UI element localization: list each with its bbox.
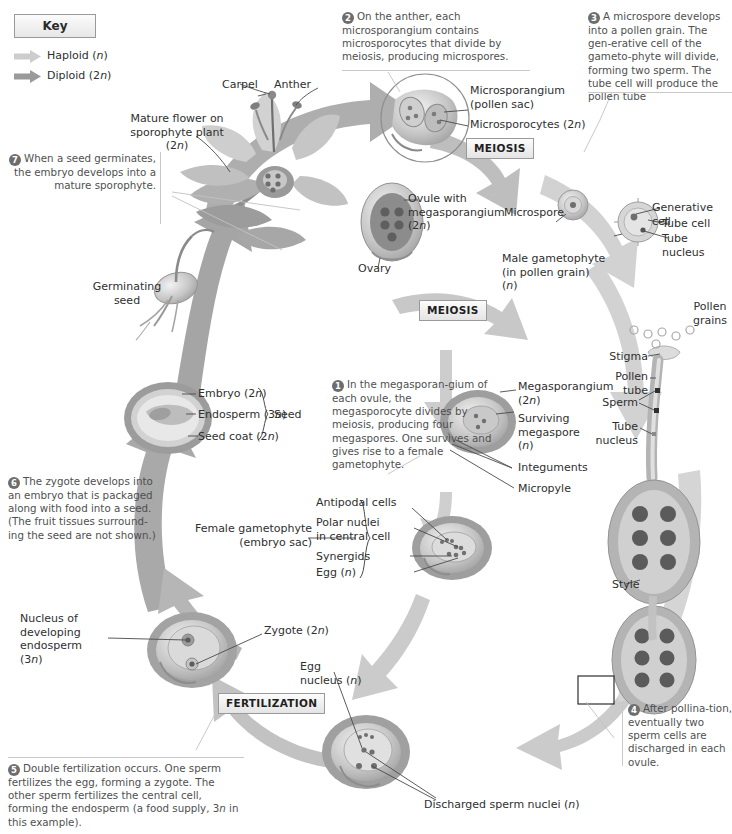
label-female-gametophyte: Female gametophyte (embryo sac) (194, 522, 312, 549)
step-callout-2: 2On the anther, each microsporangium con… (342, 10, 532, 64)
label-mature-flower: Mature flower on sporophyte plant (2n) (118, 112, 236, 153)
step-callout-4: 4After pollina-tion, eventually two sper… (628, 702, 732, 769)
step-text-6: The zygote develops into an embryo that … (8, 475, 156, 541)
step-callout-7: 7When a seed germinates, the embryo deve… (8, 152, 156, 192)
label-seed: Seed (274, 408, 302, 422)
life-cycle-diagram: Key Haploid (n) Diploid (2n) MEIOSIS MEI… (0, 0, 732, 834)
label-megasporangium: Megasporangium (2n) (518, 380, 613, 407)
female-gametophyte-illustration (412, 516, 492, 580)
label-polar-nuclei: Polar nuclei in central cell (316, 516, 390, 543)
label-pollen-grains: Pollen grains (688, 300, 732, 327)
step-callout-5: 5Double fertilization occurs. One sperm … (8, 762, 244, 829)
label-style: Style (612, 578, 640, 592)
label-microspore: Microspore (478, 206, 564, 220)
step-text-7: When a seed germinates, the embryo devel… (14, 152, 156, 191)
label-integuments: Integuments (518, 461, 588, 475)
label-antipodal-cells: Antipodal cells (316, 496, 397, 510)
step-3-underline (588, 92, 732, 93)
step-5-overline (8, 757, 244, 758)
key-item-diploid: Diploid (2n) (14, 68, 111, 84)
step-number-3: 3 (588, 12, 600, 24)
label-germinating-seed: Germinating seed (88, 280, 166, 307)
key-heading: Key (14, 14, 96, 38)
label-surviving-megaspore: Surviving megaspore (n) (518, 412, 580, 453)
label-microsporocytes: Microsporocytes (2n) (470, 118, 586, 132)
label-microsporangium: Microsporangium (pollen sac) (470, 84, 565, 111)
step-text-1: In the megasporan-gium of each ovule, th… (332, 378, 491, 470)
step-7-rule (160, 152, 161, 224)
label-tube-nucleus-top: Tube nucleus (662, 232, 732, 259)
label-egg-nucleus: Egg nucleus (n) (300, 660, 362, 687)
step-callout-3: 3A microspore develops into a pollen gra… (588, 10, 732, 103)
label-embryo: Embryo (2n) (198, 387, 266, 401)
step-number-4: 4 (628, 704, 640, 716)
label-endosperm: Endosperm (3n) (198, 408, 286, 422)
step-text-5: Double fertilization occurs. One sperm f… (8, 762, 239, 828)
label-egg: Egg (n) (316, 566, 356, 580)
step-number-2: 2 (342, 12, 354, 24)
label-male-gametophyte: Male gametophyte (in pollen grain) (n) (502, 252, 605, 293)
label-ovary: Ovary (358, 262, 391, 276)
label-seed-coat: Seed coat (2n) (198, 430, 279, 444)
step-number-7: 7 (9, 154, 21, 166)
zygote-ovule-illustration (147, 612, 237, 688)
step-number-1: 1 (332, 380, 344, 392)
step-number-5: 5 (8, 764, 20, 776)
step-text-3: A microspore develops into a pollen grai… (588, 10, 720, 102)
key-label-diploid: Diploid (2n) (47, 68, 111, 84)
fertilization-ovule-illustration (322, 715, 410, 789)
step-callout-1: 1In the megasporan-gium of each ovule, t… (332, 378, 492, 471)
step-text-4: After pollina-tion, eventually two sperm… (628, 702, 732, 768)
step-callout-6: 6The zygote develops into an embryo that… (8, 475, 156, 542)
label-synergids: Synergids (316, 550, 370, 564)
process-box-meiosis-middle: MEIOSIS (419, 300, 487, 321)
step-4-rule (622, 702, 623, 766)
step-2-underline (342, 70, 530, 71)
step-number-6: 6 (8, 477, 20, 489)
haploid-arrow-icon (14, 50, 42, 63)
process-box-fertilization: FERTILIZATION (218, 693, 325, 714)
anther-closeup-illustration (381, 74, 469, 162)
label-zygote: Zygote (2n) (264, 624, 329, 638)
process-box-meiosis-top: MEIOSIS (466, 138, 534, 159)
label-nucleus-developing-endosperm: Nucleus of developing endosperm (3n) (20, 612, 82, 666)
label-micropyle: Micropyle (518, 482, 571, 496)
label-discharged-sperm-nuclei: Discharged sperm nuclei (n) (424, 798, 580, 812)
label-tube-nucleus-lower: Tube nucleus (584, 420, 638, 447)
label-stigma: Stigma (584, 350, 648, 364)
key-label-haploid: Haploid (n) (47, 48, 108, 64)
step-text-2: On the anther, each microsporangium cont… (342, 10, 508, 62)
label-tube-cell: Tube cell (662, 217, 710, 231)
label-anther: Anther (274, 78, 311, 92)
key-item-haploid: Haploid (n) (14, 48, 108, 64)
diploid-arrow-icon (14, 70, 42, 83)
label-carpel: Carpel (222, 78, 258, 92)
